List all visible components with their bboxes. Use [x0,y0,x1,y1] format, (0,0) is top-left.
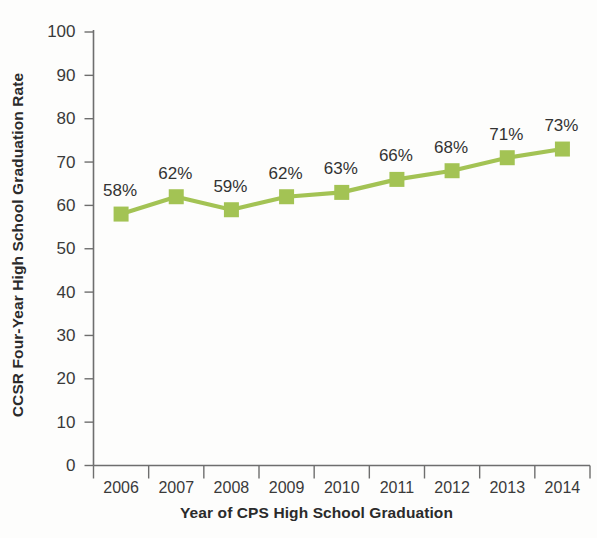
line-chart-plot: 0102030405060708090100 58%62%59%62%63%66… [0,0,597,500]
data-point-marker [114,207,129,222]
x-tick-label: 2012 [434,479,470,496]
data-point-marker [169,189,184,204]
x-tick-label: 2013 [489,479,525,496]
y-tick-label: 100 [47,22,75,41]
x-tick-label: 2014 [545,479,581,496]
y-tick-label: 50 [57,239,76,258]
y-tick-label: 70 [57,153,76,172]
data-point-marker [224,202,239,217]
data-point-marker [279,189,294,204]
x-axis-tick-labels: 200620072008200920102011201220132014 [103,479,580,496]
x-axis-ticks [94,466,591,479]
data-point-marker [500,150,515,165]
y-tick-label: 20 [57,369,76,388]
y-axis-ticks: 0102030405060708090100 [47,22,93,475]
x-tick-label: 2006 [103,479,139,496]
data-point-marker [389,172,404,187]
data-point-label: 62% [158,164,192,183]
data-point-label: 71% [489,125,523,144]
x-axis-title: Year of CPS High School Graduation [36,504,597,522]
data-point-label: 68% [434,138,468,157]
data-point-label: 62% [269,164,303,183]
y-tick-label: 30 [57,326,76,345]
x-tick-label: 2009 [269,479,305,496]
y-tick-label: 40 [57,283,76,302]
data-point-label: 66% [379,146,413,165]
data-point-marker [445,163,460,178]
y-tick-label: 80 [57,109,76,128]
data-point-label: 63% [324,159,358,178]
y-tick-label: 0 [66,456,75,475]
data-point-label: 59% [213,177,247,196]
data-point-marker [334,185,349,200]
y-tick-label: 10 [57,413,76,432]
x-tick-label: 2011 [380,479,415,496]
y-tick-label: 90 [57,66,76,85]
x-tick-label: 2008 [214,479,250,496]
data-point-marker [555,142,570,157]
y-tick-label: 60 [57,196,76,215]
x-tick-label: 2010 [324,479,360,496]
x-tick-label: 2007 [158,479,194,496]
data-point-label: 58% [103,181,137,200]
chart-container: CCSR Four-Year High School Graduation Ra… [0,0,597,538]
data-point-label: 73% [544,116,578,135]
